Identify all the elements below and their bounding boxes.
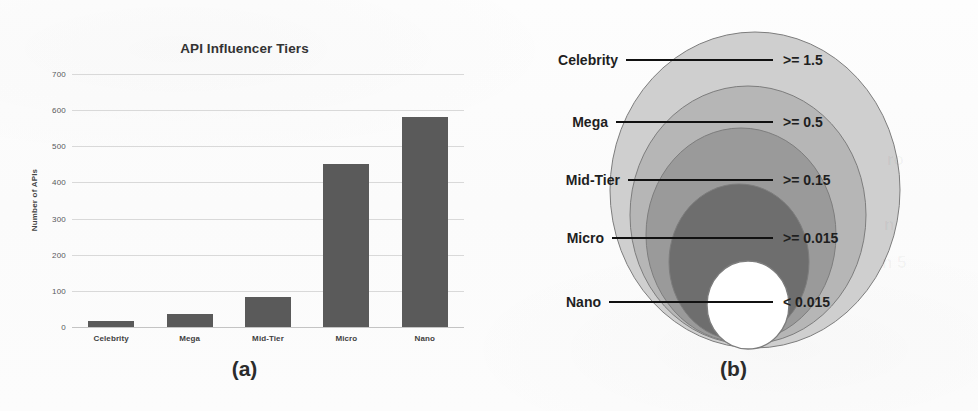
panel-a-bar-chart: API Influencer Tiers Number of APIs 0100… [0, 0, 489, 411]
y-tick-label: 600 [52, 106, 66, 115]
tier-name-celebrity[interactable]: Celebrity [558, 52, 618, 68]
y-tick-label: 400 [52, 178, 66, 187]
y-tick-label: 300 [52, 214, 66, 223]
x-tick-label: Celebrity [94, 334, 129, 343]
bar-slot [150, 74, 228, 327]
chart-title: API Influencer Tiers [0, 41, 489, 56]
tier-circle-nano[interactable] [707, 261, 789, 349]
x-tick-label: Mid-Tier [252, 334, 284, 343]
scan-artifact: n 5 [882, 253, 907, 273]
bar-slot [307, 74, 385, 327]
plot-area: 0100200300400500600700 CelebrityMegaMid-… [72, 74, 464, 327]
scan-artifact: n [884, 215, 894, 235]
panel-b-caption: (b) [489, 357, 978, 381]
tier-threshold-micro: >= 0.015 [783, 230, 838, 246]
gridline [72, 327, 464, 328]
bar-micro[interactable] [323, 164, 369, 327]
tier-name-nano[interactable]: Nano [566, 294, 601, 310]
bar-slot [386, 74, 464, 327]
bar-celebrity[interactable] [88, 321, 134, 328]
tier-threshold-celebrity: >= 1.5 [783, 52, 823, 68]
bar-slot [229, 74, 307, 327]
tier-threshold-mid-tier: >= 0.15 [783, 172, 831, 188]
bar-slot [72, 74, 150, 327]
bar-mega[interactable] [167, 314, 213, 327]
y-tick-label: 100 [52, 286, 66, 295]
x-tick-label: Nano [415, 334, 435, 343]
x-tick-label: Micro [335, 334, 357, 343]
panel-b-tier-diagram: Celebrity>= 1.5Mega>= 0.5Mid-Tier>= 0.15… [489, 0, 978, 411]
y-tick-label: 0 [61, 323, 66, 332]
tier-name-mid-tier[interactable]: Mid-Tier [566, 172, 620, 188]
bar-nano[interactable] [402, 117, 448, 327]
tier-name-mega[interactable]: Mega [572, 114, 608, 130]
y-tick-label: 700 [52, 70, 66, 79]
bar-mid-tier[interactable] [245, 297, 291, 327]
tier-threshold-nano: < 0.015 [783, 294, 830, 310]
tier-name-micro[interactable]: Micro [567, 230, 604, 246]
y-tick-label: 200 [52, 250, 66, 259]
panel-a-caption: (a) [0, 357, 489, 381]
figure-page: API Influencer Tiers Number of APIs 0100… [0, 0, 978, 411]
y-tick-label: 500 [52, 142, 66, 151]
tier-threshold-mega: >= 0.5 [783, 114, 823, 130]
y-axis-title: Number of APIs [30, 169, 39, 232]
x-tick-label: Mega [179, 334, 200, 343]
scan-artifact: ro [887, 150, 904, 170]
